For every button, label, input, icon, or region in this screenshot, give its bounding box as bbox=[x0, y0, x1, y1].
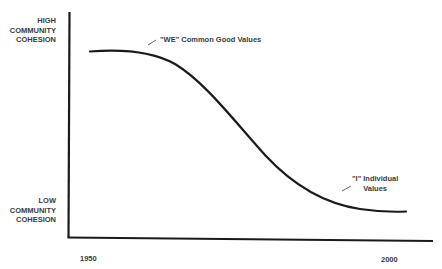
x-axis bbox=[68, 238, 434, 242]
annotation-we-common-good: "WE" Common Good Values bbox=[160, 35, 261, 45]
y-label-low-line3: COHESION bbox=[0, 215, 56, 225]
y-label-low-line2: COMMUNITY bbox=[0, 206, 56, 216]
x-tick-label-end: 2000 bbox=[381, 255, 398, 265]
annotation-i-line1: "I" Individual bbox=[352, 174, 398, 184]
x-tick-label-start: 1950 bbox=[80, 254, 97, 264]
y-label-low-line1: LOW bbox=[0, 196, 56, 206]
i-annotation-leader bbox=[342, 186, 351, 191]
y-label-high: HIGH COMMUNITY COHESION bbox=[0, 16, 56, 45]
y-label-high-line2: COMMUNITY bbox=[0, 26, 56, 36]
y-axis bbox=[69, 12, 70, 238]
y-label-high-line3: COHESION bbox=[0, 35, 56, 45]
y-label-high-line1: HIGH bbox=[0, 16, 56, 26]
y-label-low: LOW COMMUNITY COHESION bbox=[0, 196, 56, 225]
annotation-i-line2: Values bbox=[352, 184, 398, 194]
annotation-i-individual: "I" Individual Values bbox=[352, 174, 398, 193]
we-annotation-leader bbox=[148, 40, 156, 45]
